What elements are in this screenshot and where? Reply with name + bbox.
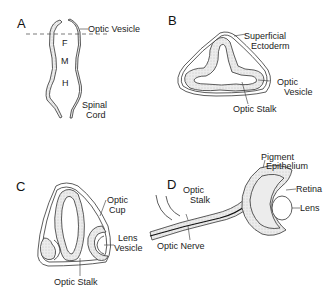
label-cord: Cord bbox=[86, 110, 106, 120]
region-label-midbrain: M bbox=[61, 56, 69, 66]
eye-development-diagram: A B C D F M H Optic Vesicle Spinal Cord … bbox=[0, 0, 329, 294]
region-label-hindbrain: H bbox=[62, 78, 69, 88]
label-optic-nerve: Optic Nerve bbox=[157, 241, 205, 251]
label-optic-vesicle-a: Optic Vesicle bbox=[88, 24, 140, 34]
label-optic-d: Optic bbox=[183, 185, 204, 195]
label-optic-stalk-b: Optic Stalk bbox=[233, 104, 277, 114]
label-superficial: Superficial bbox=[244, 31, 286, 41]
label-optic-b: Optic bbox=[277, 77, 298, 87]
panel-label-b: B bbox=[168, 14, 177, 27]
panel-label-d: D bbox=[167, 178, 176, 191]
label-ectoderm: Ectoderm bbox=[251, 41, 290, 51]
label-vesicle-b: Vesicle bbox=[284, 87, 313, 97]
label-optic-stalk-c: Optic Stalk bbox=[54, 277, 98, 287]
label-epithelium: Epithelium bbox=[266, 161, 308, 171]
label-cup: Cup bbox=[109, 205, 126, 215]
panel-label-c: C bbox=[16, 180, 25, 193]
label-spinal: Spinal bbox=[82, 100, 107, 110]
label-optic-c: Optic bbox=[107, 195, 128, 205]
region-label-forebrain: F bbox=[62, 38, 68, 48]
label-stalk-d: Stalk bbox=[190, 195, 210, 205]
label-vesicle-c: Vesicle bbox=[114, 243, 143, 253]
label-lens-d: Lens bbox=[300, 203, 320, 213]
label-lens-c: Lens bbox=[118, 233, 138, 243]
panel-c-optic-cup bbox=[38, 183, 111, 266]
label-retina: Retina bbox=[296, 184, 322, 194]
panel-label-a: A bbox=[17, 17, 26, 30]
